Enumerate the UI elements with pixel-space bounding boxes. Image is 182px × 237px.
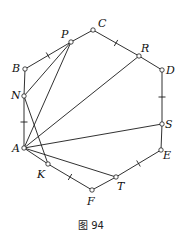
point-N (22, 94, 26, 98)
segment-AP (24, 42, 71, 148)
segment-SE (161, 124, 162, 150)
label-K: K (36, 168, 46, 181)
point-F (90, 188, 94, 192)
segment-NP (24, 42, 71, 96)
segment-TF (92, 177, 116, 190)
label-D: D (165, 64, 175, 77)
point-C (91, 28, 95, 32)
segment-PC (71, 30, 93, 42)
point-P (69, 40, 73, 44)
segment-AS (24, 124, 162, 148)
label-P: P (60, 28, 69, 41)
point-B (23, 67, 27, 71)
label-E: E (162, 149, 171, 162)
point-labels: ABCDEFPRNSKT (10, 17, 175, 208)
segment-NB (24, 69, 25, 96)
label-F: F (86, 195, 95, 208)
segment-KA (24, 148, 48, 164)
point-S (160, 122, 164, 126)
label-A: A (11, 142, 20, 155)
point-D (160, 68, 164, 72)
label-T: T (117, 180, 126, 193)
segment-AR (24, 56, 139, 148)
label-C: C (98, 17, 107, 30)
tick-KF (68, 174, 72, 180)
segment-RD (139, 56, 162, 70)
tick-CR (114, 40, 117, 46)
point-A (22, 146, 26, 150)
tick-BP (46, 52, 50, 58)
geometry-figure: ABCDEFPRNSKT 图 94 (0, 0, 182, 237)
label-N: N (10, 89, 21, 102)
label-S: S (165, 118, 173, 131)
tick-marks (21, 40, 166, 180)
point-K (46, 162, 50, 166)
segment-NK (24, 96, 48, 164)
tick-TE (137, 160, 141, 166)
figure-caption: 图 94 (78, 220, 104, 231)
label-B: B (11, 62, 20, 75)
point-T (114, 175, 118, 179)
label-R: R (140, 42, 149, 55)
